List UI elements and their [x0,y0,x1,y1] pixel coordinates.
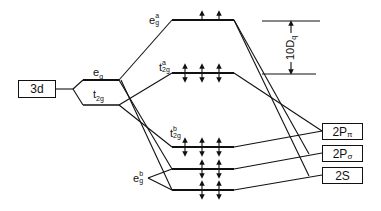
orbital-box-3d: 3d [18,80,56,98]
label-t2g-antibonding: ta2g [159,62,170,73]
label-eg-bonding: ebg [133,173,143,184]
label-eg: eg [93,67,103,78]
orbital-box-2s: 2S [322,167,363,184]
label-eg-antibonding: eag [149,15,159,26]
label-t2g-bonding: tb2g [170,128,181,139]
orbital-label-3d: 3d [30,82,43,96]
mo-energy-diagram: 3d eg t2g eag ta2g tb2g ebg 10Dq 2Pπ 2Pσ… [0,0,381,211]
orbital-box-2p-pi: 2Pπ [322,123,363,140]
label-t2g: t2g [93,89,104,100]
label-10dq: 10Dq [284,36,296,60]
orbital-box-2p-sigma: 2Pσ [322,145,363,162]
